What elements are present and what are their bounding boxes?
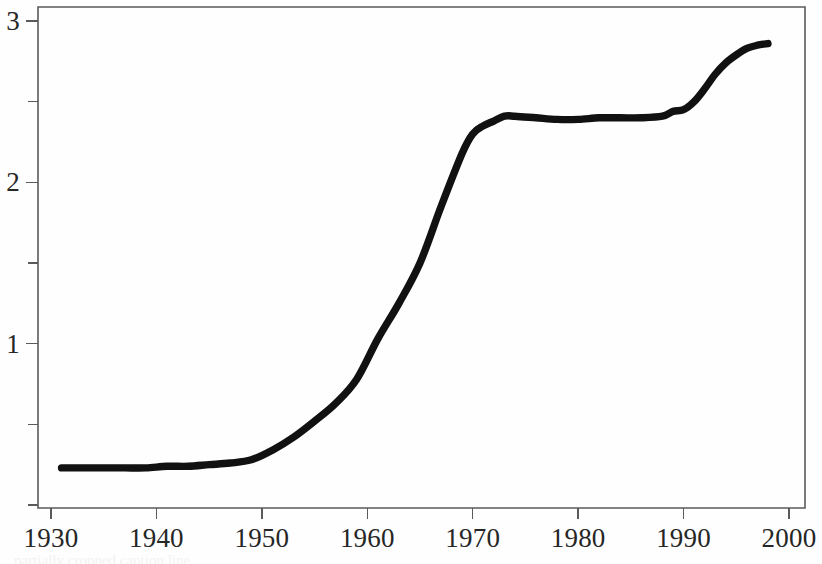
y-axis-tick-marks [26,21,38,505]
x-axis-tick-marks [51,508,789,519]
x-tick-label: 1930 [24,525,79,552]
x-tick-label: 1940 [129,525,184,552]
data-series-group [62,44,768,468]
x-tick-label: 1960 [340,525,395,552]
x-tick-label: 1980 [551,525,606,552]
y-tick-label: 1 [0,330,20,357]
data-line-value [62,44,768,468]
x-tick-label: 1990 [656,525,711,552]
x-tick-label: 1950 [234,525,289,552]
x-tick-label: 1970 [445,525,500,552]
y-tick-label: 3 [0,8,20,35]
x-tick-label: 2000 [762,525,817,552]
y-tick-label: 2 [0,169,20,196]
